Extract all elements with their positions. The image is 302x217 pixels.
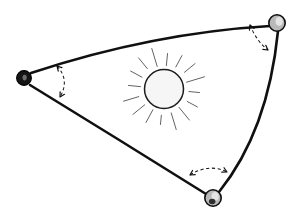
vertex-dark-speck: [209, 199, 216, 205]
triangle-interior-region: [30, 26, 270, 192]
left-vertex-node: [17, 71, 32, 86]
top-right-vertex-node: [269, 15, 285, 31]
bottom-vertex-node: [205, 190, 221, 206]
figure-canvas: [0, 0, 302, 217]
sun-disc-icon: [145, 70, 184, 109]
vertex-highlight: [276, 17, 283, 26]
vertex-speck: [23, 75, 27, 81]
curved-triangle-diagram: [0, 0, 302, 217]
